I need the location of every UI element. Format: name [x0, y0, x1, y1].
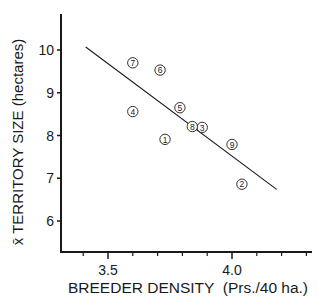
scatter-chart: 3.54.0 109876 123456789 BREEDER DENSITY … — [0, 0, 318, 302]
data-point-9: 9 — [227, 139, 237, 149]
y-tick-label: 10 — [38, 42, 54, 58]
y-ticks: 109876 — [38, 42, 61, 229]
x-tick-label: 3.5 — [98, 262, 118, 278]
x-axis-label: BREEDER DENSITY (Prs./40 ha.) — [68, 279, 308, 296]
x-tick-label: 4.0 — [222, 262, 242, 278]
y-tick-label: 8 — [46, 128, 54, 144]
data-point-label: 1 — [163, 135, 168, 145]
data-point-label: 9 — [230, 140, 235, 150]
data-point-4: 4 — [128, 106, 138, 116]
y-tick-label: 6 — [46, 213, 54, 229]
regression-line — [86, 47, 277, 189]
data-point-label: 2 — [240, 179, 245, 189]
data-point-5: 5 — [175, 103, 185, 113]
y-tick-label: 7 — [46, 170, 54, 186]
data-point-label: 8 — [190, 122, 195, 132]
data-point-2: 2 — [237, 179, 247, 189]
x-ticks: 3.54.0 — [83, 252, 306, 278]
data-point-label: 6 — [158, 65, 163, 75]
y-axis-label: x̄ TERRITORY SIZE (hectares) — [9, 39, 26, 245]
y-tick-label: 9 — [46, 85, 54, 101]
data-point-7: 7 — [128, 58, 138, 68]
data-point-label: 4 — [130, 107, 135, 117]
data-point-8: 8 — [187, 121, 197, 131]
data-point-1: 1 — [160, 134, 170, 144]
data-point-6: 6 — [155, 65, 165, 75]
data-point-label: 7 — [130, 58, 135, 68]
data-points: 123456789 — [128, 58, 248, 190]
data-point-label: 3 — [200, 123, 205, 133]
data-point-3: 3 — [197, 122, 207, 132]
data-point-label: 5 — [178, 103, 183, 113]
axes — [60, 14, 312, 253]
